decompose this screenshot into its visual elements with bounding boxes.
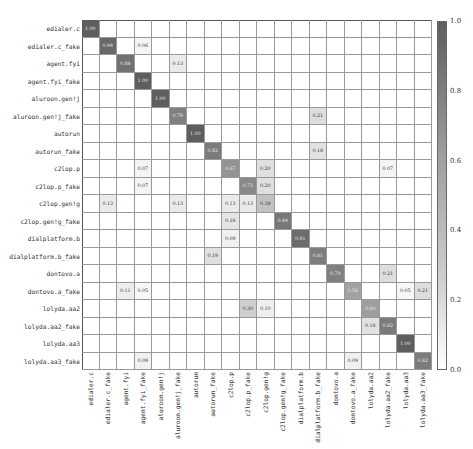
heatmap-cell: [100, 20, 118, 38]
heatmap-cell: [117, 335, 135, 353]
heatmap-cell: [205, 353, 223, 371]
heatmap-cell: [100, 178, 118, 196]
heatmap-cell: [292, 55, 310, 73]
heatmap-cell: [397, 318, 415, 336]
heatmap-cell: 0.82: [380, 318, 398, 336]
heatmap-cell: [380, 143, 398, 161]
heatmap-cell: [257, 20, 275, 38]
heatmap-cell: [205, 90, 223, 108]
heatmap-cell: [240, 230, 258, 248]
heatmap-cell: [82, 90, 100, 108]
heatmap-cell: 0.84: [275, 213, 293, 231]
y-tick-label: edialer.c: [46, 20, 80, 38]
heatmap-cell: [415, 213, 433, 231]
heatmap-cell: [187, 20, 205, 38]
heatmap-cell: 0.82: [415, 353, 433, 371]
heatmap-cell: [117, 265, 135, 283]
heatmap-cell: [187, 55, 205, 73]
heatmap-cell: [310, 230, 328, 248]
heatmap-cell: [205, 213, 223, 231]
heatmap-cell: [275, 55, 293, 73]
heatmap-cell: 0.18: [362, 318, 380, 336]
heatmap-cell: [117, 195, 135, 213]
heatmap-cell: [152, 213, 170, 231]
heatmap-cell: [415, 335, 433, 353]
heatmap-cell: [135, 108, 153, 126]
x-tick-label: lolyda.aa2_fake: [384, 372, 392, 449]
heatmap-cell: [327, 283, 345, 301]
heatmap-cell: [222, 318, 240, 336]
heatmap-cell: [397, 230, 415, 248]
heatmap-cell: 0.73: [240, 178, 258, 196]
heatmap-cell: [117, 213, 135, 231]
heatmap-cell: [152, 195, 170, 213]
heatmap-cell: [82, 318, 100, 336]
heatmap-cell: [82, 143, 100, 161]
heatmap-cell: [397, 178, 415, 196]
heatmap-cell: [310, 318, 328, 336]
heatmap-cell: [170, 20, 188, 38]
heatmap-cell: 0.07: [135, 160, 153, 178]
heatmap-cell: [117, 125, 135, 143]
heatmap-cell: [240, 143, 258, 161]
heatmap-cell: 0.38: [257, 195, 275, 213]
heatmap-cell: [222, 300, 240, 318]
heatmap-cell: [310, 283, 328, 301]
heatmap-cell: [275, 353, 293, 371]
heatmap-cell: [362, 38, 380, 56]
heatmap-cell: 0.81: [310, 248, 328, 266]
heatmap-cell: [310, 265, 328, 283]
heatmap-cell: [292, 318, 310, 336]
heatmap-cell: [117, 90, 135, 108]
colorbar-tick-label: 0.8: [450, 87, 461, 95]
heatmap-cell: [397, 38, 415, 56]
heatmap-cell: [117, 230, 135, 248]
heatmap-cell: [415, 143, 433, 161]
heatmap-cell: [310, 300, 328, 318]
heatmap-cell: [362, 143, 380, 161]
heatmap-cell: [135, 318, 153, 336]
heatmap-cell: [222, 265, 240, 283]
heatmap-cell: [292, 143, 310, 161]
heatmap-cell: [345, 213, 363, 231]
heatmap-cell: 1.00: [187, 125, 205, 143]
heatmap-cell: [205, 160, 223, 178]
heatmap-cell: [205, 73, 223, 91]
heatmap-cell: [152, 55, 170, 73]
heatmap-cell: 0.05: [135, 283, 153, 301]
y-tick-label: c2lop.p_fake: [35, 178, 80, 196]
heatmap-cell: [327, 143, 345, 161]
heatmap-cell: [380, 125, 398, 143]
heatmap-cell: [205, 265, 223, 283]
colorbar: [437, 21, 447, 370]
heatmap-cell: [117, 248, 135, 266]
y-tick-label: dialplatform.b: [28, 230, 80, 248]
heatmap-cell: [135, 195, 153, 213]
heatmap-cell: [415, 195, 433, 213]
heatmap-cell: [327, 125, 345, 143]
heatmap-cell: [82, 353, 100, 371]
heatmap-cell: [135, 20, 153, 38]
heatmap-cell: [345, 20, 363, 38]
heatmap-cell: [327, 335, 345, 353]
heatmap-cell: [152, 73, 170, 91]
heatmap-cell: 0.13: [170, 55, 188, 73]
heatmap-cell: [82, 213, 100, 231]
heatmap-cell: [152, 318, 170, 336]
heatmap-cell: [362, 335, 380, 353]
heatmap-cell: [240, 73, 258, 91]
heatmap-cell: [187, 90, 205, 108]
heatmap-cell: [117, 20, 135, 38]
heatmap-cell: 0.09: [135, 353, 153, 371]
heatmap-cell: [345, 300, 363, 318]
heatmap-cell: [275, 90, 293, 108]
heatmap-cell: [117, 38, 135, 56]
heatmap-cell: [100, 125, 118, 143]
heatmap-cell: [292, 195, 310, 213]
heatmap-cell: [345, 318, 363, 336]
heatmap-cell: [415, 73, 433, 91]
heatmap-cell: [152, 178, 170, 196]
heatmap-cell: [397, 125, 415, 143]
x-tick-label: lolyda.aa2: [367, 372, 375, 449]
y-tick-label: c2lop.gen!g_fake: [20, 213, 80, 231]
